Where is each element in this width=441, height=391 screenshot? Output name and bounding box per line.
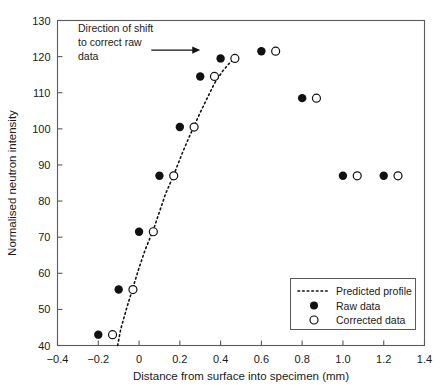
legend-label-raw-data: Raw data — [336, 300, 381, 312]
x-axis-tick-labels: −0.4−0.200.20.40.60.81.01.21.4 — [47, 353, 433, 365]
x-axis-title: Distance from surface into specimen (mm) — [133, 370, 349, 382]
raw-data-point — [114, 285, 122, 293]
annotation-line-2: to correct raw — [78, 36, 142, 48]
raw-data-point — [176, 123, 184, 131]
y-tick-label: 50 — [38, 303, 50, 315]
chart-page: −0.4−0.200.20.40.60.81.01.21.4 405060708… — [0, 0, 441, 391]
x-tick-label: 0.4 — [213, 353, 228, 365]
x-tick-label: 0.8 — [295, 353, 310, 365]
raw-data-point — [339, 172, 347, 180]
y-tick-label: 90 — [38, 159, 50, 171]
shift-arrow-head — [192, 47, 200, 54]
y-tick-label: 130 — [32, 15, 50, 27]
x-tick-label: 0 — [136, 353, 142, 365]
x-tick-label: 0.6 — [254, 353, 269, 365]
corrected-data-point — [149, 228, 157, 236]
shift-direction-annotation: Direction of shift to correct raw data — [78, 22, 200, 62]
raw-data-point — [196, 72, 204, 80]
x-tick-label: −0.2 — [87, 353, 109, 365]
raw-data-point — [155, 172, 163, 180]
corrected-data-point — [394, 172, 402, 180]
x-tick-label: 1.2 — [376, 353, 391, 365]
y-tick-label: 120 — [32, 51, 50, 63]
x-tick-label: −0.4 — [47, 353, 69, 365]
y-axis-ticks — [58, 21, 63, 346]
neutron-intensity-scatter-chart: −0.4−0.200.20.40.60.81.01.21.4 405060708… — [0, 0, 441, 391]
corrected-data-point — [353, 172, 361, 180]
y-tick-label: 60 — [38, 267, 50, 279]
y-axis-title: Normalised neutron intensity — [6, 110, 18, 256]
raw-data-point — [380, 172, 388, 180]
raw-data-point — [216, 54, 224, 62]
corrected-data-point — [272, 47, 280, 55]
corrected-data-point — [190, 123, 198, 131]
corrected-data-point — [312, 94, 320, 102]
legend-corrected-data-swatch — [310, 316, 318, 324]
annotation-line-3: data — [78, 50, 99, 62]
corrected-data-point — [109, 331, 117, 339]
x-tick-label: 1.0 — [335, 353, 350, 365]
corrected-data-point — [129, 286, 137, 294]
legend-label-predicted-profile: Predicted profile — [336, 285, 412, 297]
y-tick-label: 100 — [32, 123, 50, 135]
predicted-profile-line — [118, 57, 237, 345]
y-tick-label: 40 — [38, 340, 50, 352]
raw-data-point — [94, 330, 102, 338]
x-tick-label: 0.2 — [172, 353, 187, 365]
legend-label-corrected-data: Corrected data — [336, 314, 406, 326]
x-tick-label: 1.4 — [417, 353, 432, 365]
annotation-line-1: Direction of shift — [78, 22, 153, 34]
y-tick-label: 70 — [38, 231, 50, 243]
raw-data-point — [257, 47, 265, 55]
legend-raw-data-swatch — [310, 302, 318, 310]
raw-data-point — [135, 228, 143, 236]
y-axis-tick-labels: 405060708090100110120130 — [32, 15, 50, 352]
x-axis-ticks — [58, 341, 425, 346]
corrected-data-point — [210, 72, 218, 80]
chart-legend[interactable]: Predicted profile Raw data Corrected dat… — [291, 279, 416, 330]
y-tick-label: 80 — [38, 195, 50, 207]
corrected-data-point — [231, 54, 239, 62]
corrected-data-point — [170, 172, 178, 180]
y-tick-label: 110 — [33, 87, 51, 99]
raw-data-point — [298, 94, 306, 102]
